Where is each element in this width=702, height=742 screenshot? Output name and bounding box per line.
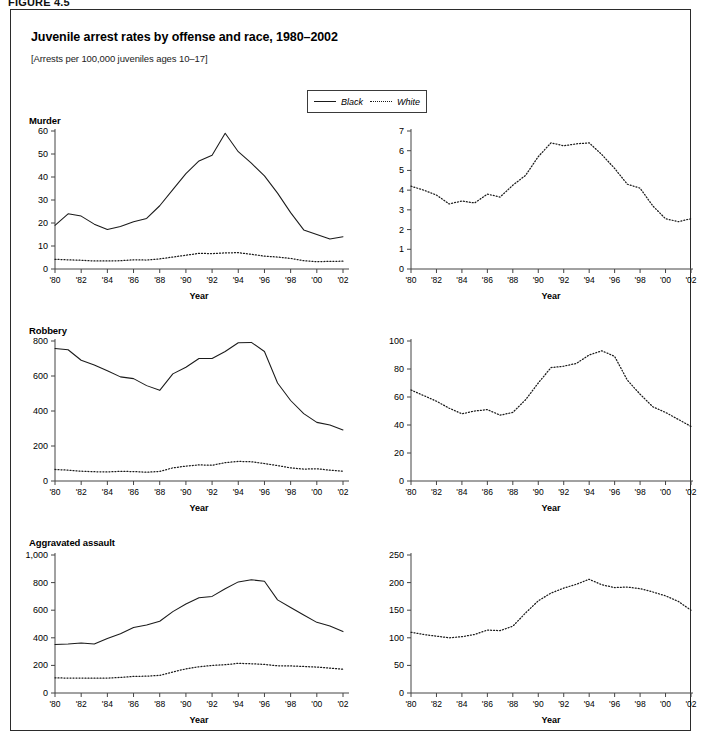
y-tick-label: 20 xyxy=(13,218,48,228)
x-tick-label: '94 xyxy=(233,699,244,709)
x-tick-label: '98 xyxy=(635,275,646,285)
x-tick-label: '88 xyxy=(507,699,518,709)
figure-subtitle: [Arrests per 100,000 juveniles ages 10–1… xyxy=(31,53,207,64)
x-tick-label: '82 xyxy=(76,275,87,285)
x-tick-label: '80 xyxy=(405,275,416,285)
y-tick-label: 1 xyxy=(373,244,404,254)
x-tick-label: '96 xyxy=(259,487,270,497)
chart-panel-aggravated-assault-white: 050100150200250'80'82'84'86'88'90'92'94'… xyxy=(373,537,693,741)
chart-legend: Black White xyxy=(307,90,427,113)
series-line-white xyxy=(411,143,691,222)
x-axis-label-robbery-white: Year xyxy=(411,503,691,513)
x-tick-label: '92 xyxy=(558,699,569,709)
x-tick-label: '96 xyxy=(609,699,620,709)
x-tick-label: '92 xyxy=(207,487,218,497)
x-tick-label: '92 xyxy=(207,275,218,285)
x-tick-label: '98 xyxy=(285,699,296,709)
plot-area-murder-both xyxy=(13,115,353,315)
y-tick-label: 0 xyxy=(373,688,404,698)
x-tick-label: '02 xyxy=(685,487,696,497)
y-tick-label: 60 xyxy=(373,392,404,402)
y-tick-label: 1,000 xyxy=(13,550,48,560)
y-tick-label: 20 xyxy=(373,448,404,458)
y-tick-label: 5 xyxy=(373,165,404,175)
legend-entry-black: Black xyxy=(314,97,363,107)
y-tick-label: 400 xyxy=(13,633,48,643)
x-tick-label: '94 xyxy=(584,699,595,709)
x-axis-label-aggravated-assault-white: Year xyxy=(411,715,691,725)
x-tick-label: '84 xyxy=(456,699,467,709)
y-tick-label: 800 xyxy=(13,578,48,588)
x-tick-label: '00 xyxy=(311,275,322,285)
x-tick-label: '90 xyxy=(180,699,191,709)
y-tick-label: 80 xyxy=(373,364,404,374)
series-line-black xyxy=(55,133,343,239)
x-tick-label: '96 xyxy=(609,275,620,285)
x-tick-label: '86 xyxy=(482,487,493,497)
y-tick-label: 800 xyxy=(13,336,48,346)
x-axis-label-murder-white: Year xyxy=(411,291,691,301)
y-tick-label: 200 xyxy=(13,660,48,670)
x-tick-label: '02 xyxy=(685,275,696,285)
legend-swatch-dotted-icon xyxy=(370,101,392,102)
x-tick-label: '82 xyxy=(76,487,87,497)
x-tick-label: '82 xyxy=(431,487,442,497)
x-tick-label: '98 xyxy=(285,275,296,285)
x-tick-label: '80 xyxy=(405,699,416,709)
x-tick-label: '84 xyxy=(102,487,113,497)
x-tick-label: '84 xyxy=(102,699,113,709)
series-line-white xyxy=(55,663,343,678)
y-tick-label: 10 xyxy=(13,241,48,251)
x-tick-label: '02 xyxy=(337,275,348,285)
x-tick-label: '94 xyxy=(584,275,595,285)
x-tick-label: '90 xyxy=(180,487,191,497)
series-line-white xyxy=(411,579,691,638)
x-tick-label: '98 xyxy=(635,699,646,709)
y-tick-label: 200 xyxy=(13,441,48,451)
y-tick-label: 0 xyxy=(373,264,404,274)
y-tick-label: 150 xyxy=(373,605,404,615)
x-tick-label: '86 xyxy=(482,699,493,709)
legend-label-white: White xyxy=(397,97,420,107)
x-tick-label: '00 xyxy=(660,699,671,709)
y-tick-label: 600 xyxy=(13,605,48,615)
x-tick-label: '88 xyxy=(507,487,518,497)
y-tick-label: 400 xyxy=(13,406,48,416)
x-tick-label: '02 xyxy=(337,487,348,497)
x-tick-label: '96 xyxy=(259,699,270,709)
y-tick-label: 0 xyxy=(373,476,404,486)
x-tick-label: '90 xyxy=(533,699,544,709)
y-tick-label: 250 xyxy=(373,550,404,560)
x-tick-label: '02 xyxy=(337,699,348,709)
y-tick-label: 600 xyxy=(13,371,48,381)
x-tick-label: '82 xyxy=(76,699,87,709)
legend-swatch-solid-icon xyxy=(314,101,336,102)
x-tick-label: '00 xyxy=(660,275,671,285)
x-tick-label: '00 xyxy=(660,487,671,497)
x-tick-label: '80 xyxy=(49,699,60,709)
x-axis-label-murder-both: Year xyxy=(55,291,343,301)
chart-panel-murder-white: 01234567'80'82'84'86'88'90'92'94'96'98'0… xyxy=(373,115,693,315)
x-tick-label: '86 xyxy=(128,699,139,709)
x-tick-label: '86 xyxy=(128,275,139,285)
y-tick-label: 0 xyxy=(13,476,48,486)
plot-area-murder-white xyxy=(373,115,693,315)
x-tick-label: '84 xyxy=(456,275,467,285)
y-tick-label: 100 xyxy=(373,336,404,346)
series-line-black xyxy=(55,342,343,430)
x-axis-label-robbery-both: Year xyxy=(55,503,343,513)
plot-area-aggravated-assault-both xyxy=(13,537,353,741)
x-tick-label: '88 xyxy=(154,699,165,709)
x-tick-label: '92 xyxy=(558,275,569,285)
x-tick-label: '82 xyxy=(431,275,442,285)
figure-label: FIGURE 4.5 xyxy=(8,0,70,8)
x-tick-label: '86 xyxy=(482,275,493,285)
y-tick-label: 100 xyxy=(373,633,404,643)
series-line-white xyxy=(55,461,343,472)
x-tick-label: '88 xyxy=(154,487,165,497)
x-tick-label: '92 xyxy=(207,699,218,709)
x-tick-label: '96 xyxy=(609,487,620,497)
page-title: Juvenile arrest rates by offense and rac… xyxy=(31,30,338,44)
chart-panel-aggravated-assault-both: Aggravated assault02004006008001,000'80'… xyxy=(13,537,353,741)
x-tick-label: '86 xyxy=(128,487,139,497)
